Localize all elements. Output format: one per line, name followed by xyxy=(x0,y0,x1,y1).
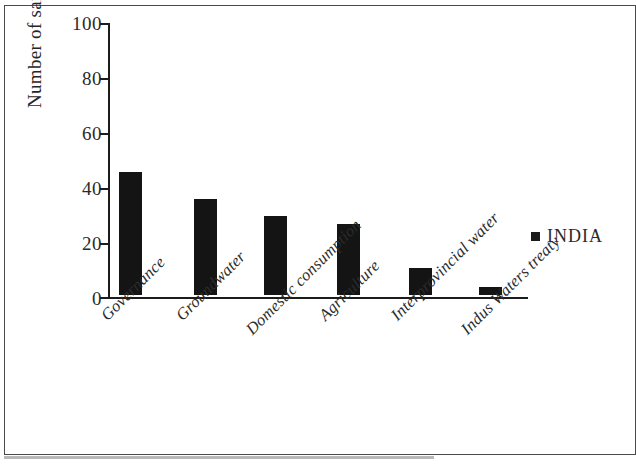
y-tick-mark-60 xyxy=(100,133,108,135)
x-axis-line xyxy=(108,297,528,299)
legend-label-india: INDIA xyxy=(547,226,603,247)
legend: INDIA xyxy=(531,226,603,247)
y-axis-line xyxy=(108,23,110,298)
y-tick-label-0: 0 xyxy=(56,288,102,310)
y-tick-label-80: 80 xyxy=(56,68,102,90)
y-tick-label-60: 60 xyxy=(56,123,102,145)
y-tick-mark-80 xyxy=(100,78,108,80)
y-axis-title: Number of sample sets xyxy=(24,0,46,108)
y-tick-mark-20 xyxy=(100,243,108,245)
y-tick-label-100: 100 xyxy=(56,13,102,35)
figure-border-shadow xyxy=(4,456,434,459)
y-tick-mark-40 xyxy=(100,188,108,190)
y-tick-label-40: 40 xyxy=(56,178,102,200)
y-tick-label-20: 20 xyxy=(56,233,102,255)
y-tick-mark-0 xyxy=(100,297,108,299)
legend-marker-square-icon xyxy=(531,232,540,241)
y-tick-mark-100 xyxy=(100,23,108,25)
